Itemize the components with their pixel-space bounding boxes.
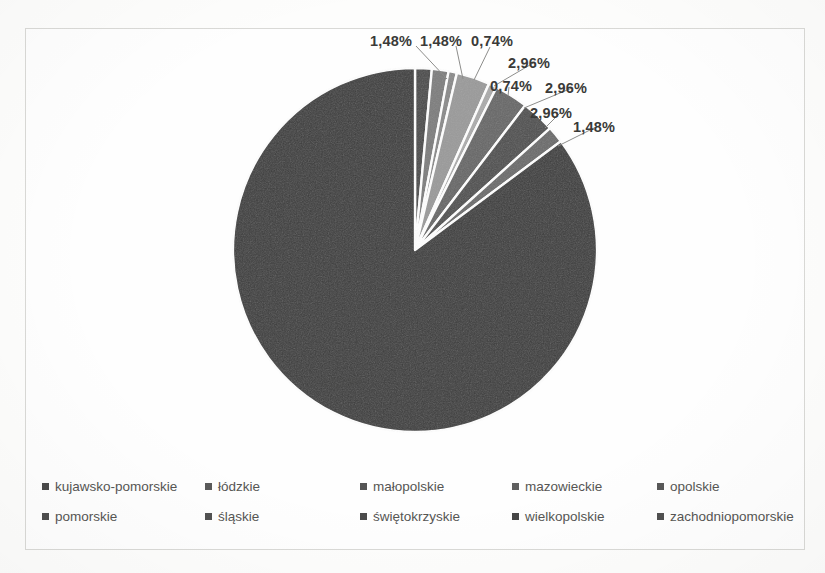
legend-swatch-icon bbox=[205, 483, 212, 490]
legend-item-opolskie[interactable]: opolskie bbox=[657, 480, 787, 494]
legend-row: kujawsko-pomorskiełódzkiemałopolskiemazo… bbox=[42, 480, 787, 494]
legend-item-label: wielkopolskie bbox=[525, 510, 605, 524]
legend-item-świętokrzyskie[interactable]: świętokrzyskie bbox=[360, 510, 512, 524]
legend-swatch-icon bbox=[205, 513, 212, 520]
legend-item-śląskie[interactable]: śląskie bbox=[205, 510, 360, 524]
legend-item-kujawsko-pomorskie[interactable]: kujawsko-pomorskie bbox=[42, 480, 205, 494]
slice-percentage-label: 0,74% bbox=[471, 33, 513, 49]
callout-leader-line bbox=[474, 47, 490, 80]
dominant-slice-percentage-label: 85,19% bbox=[322, 376, 363, 390]
legend-item-label: pomorskie bbox=[55, 510, 117, 524]
legend-swatch-icon bbox=[657, 513, 664, 520]
legend-swatch-icon bbox=[360, 513, 367, 520]
slice-percentage-label: 1,48% bbox=[573, 119, 615, 135]
legend-item-label: świętokrzyskie bbox=[373, 510, 460, 524]
pie-chart-figure: 1,48%1,48%0,74%2,96%0,74%2,96%2,96%1,48%… bbox=[0, 0, 825, 573]
legend-item-zachodniopomorskie[interactable]: zachodniopomorskie bbox=[657, 510, 787, 524]
legend-item-pomorskie[interactable]: pomorskie bbox=[42, 510, 205, 524]
legend-item-label: śląskie bbox=[218, 510, 259, 524]
legend-swatch-icon bbox=[360, 483, 367, 490]
chart-legend: kujawsko-pomorskiełódzkiemałopolskiemazo… bbox=[42, 480, 787, 539]
legend-item-małopolskie[interactable]: małopolskie bbox=[360, 480, 512, 494]
slice-percentage-label: 1,48% bbox=[420, 33, 462, 49]
legend-item-wielkopolskie[interactable]: wielkopolskie bbox=[512, 510, 657, 524]
legend-item-label: małopolskie bbox=[373, 480, 444, 494]
slice-percentage-label: 2,96% bbox=[530, 105, 572, 121]
legend-swatch-icon bbox=[42, 483, 49, 490]
pie-slices-group bbox=[233, 68, 597, 432]
legend-swatch-icon bbox=[512, 483, 519, 490]
legend-item-łódzkie[interactable]: łódzkie bbox=[205, 480, 360, 494]
legend-item-label: opolskie bbox=[670, 480, 720, 494]
legend-item-label: zachodniopomorskie bbox=[670, 510, 794, 524]
legend-swatch-icon bbox=[657, 483, 664, 490]
legend-swatch-icon bbox=[42, 513, 49, 520]
slice-percentage-label: 2,96% bbox=[545, 80, 587, 96]
legend-item-mazowieckie[interactable]: mazowieckie bbox=[512, 480, 657, 494]
legend-row: pomorskieśląskieświętokrzyskiewielkopols… bbox=[42, 510, 787, 524]
legend-item-label: mazowieckie bbox=[525, 480, 602, 494]
legend-item-label: kujawsko-pomorskie bbox=[55, 480, 177, 494]
slice-percentage-label: 1,48% bbox=[370, 33, 412, 49]
slice-percentage-label: 2,96% bbox=[508, 55, 550, 71]
legend-swatch-icon bbox=[512, 513, 519, 520]
legend-item-label: łódzkie bbox=[218, 480, 260, 494]
slice-percentage-label: 0,74% bbox=[490, 78, 532, 94]
